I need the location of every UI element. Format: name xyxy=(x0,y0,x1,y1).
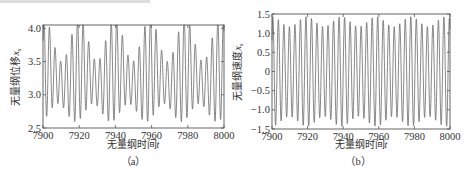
y-axis-label: 无量纲速度xs xyxy=(231,43,245,100)
y-tick-label: −0.5 xyxy=(251,85,270,96)
y-tick-label: 0.5 xyxy=(257,47,270,58)
x-tick-label: 7980 xyxy=(404,131,425,142)
panel-caption: （b） xyxy=(345,156,370,167)
chart-panel-b: 790079207940796079808000 −1.5−1.0−0.500.… xyxy=(0,0,466,181)
chart-b-plot: 790079207940796079808000 −1.5−1.0−0.500.… xyxy=(251,9,461,143)
x-tick-label: 7920 xyxy=(297,131,318,142)
velocity-trace xyxy=(272,17,450,127)
chart-b-svg: 790079207940796079808000 −1.5−1.0−0.500.… xyxy=(0,0,466,181)
x-tick-label: 8000 xyxy=(440,131,461,142)
x-axis-label: 无量纲时间t xyxy=(335,138,388,150)
y-tick-label: 0 xyxy=(265,66,270,77)
y-tick-label: 1.5 xyxy=(257,9,270,20)
y-tick-label: −1.5 xyxy=(251,124,270,135)
y-tick-label: −1.0 xyxy=(251,104,270,115)
y-tick-label: 1.0 xyxy=(257,28,270,39)
